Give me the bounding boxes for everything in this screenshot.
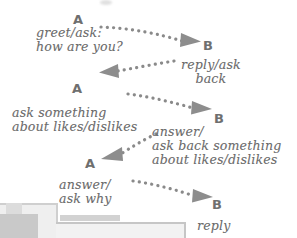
arrow-answer-ask-why: [133, 181, 213, 203]
actor-b-3: B: [212, 198, 222, 211]
arrow-reply-ask-back: [99, 61, 174, 78]
handwritten-sequence-diagram: A B A B A B greet/ask: how are you? repl…: [0, 0, 297, 238]
ink-smudge: [100, 0, 112, 5]
actor-b-2: B: [214, 112, 224, 125]
message-label-ask-something-likes: ask something about likes/dislikes: [12, 106, 137, 134]
actor-b-1: B: [203, 39, 213, 52]
photo-fragment-bar: [56, 222, 186, 238]
message-label-answer-ask-back-likes: answer/ ask back something about likes/d…: [152, 125, 281, 167]
message-label-reply-ask-back: reply/ask back: [181, 58, 241, 86]
actor-a-3: A: [85, 157, 96, 170]
message-label-answer-ask-why: answer/ ask why: [59, 178, 112, 206]
message-label-reply: reply: [197, 219, 230, 233]
photo-fragment-bar-inner: [60, 215, 120, 221]
photo-fragment-block: [0, 214, 38, 238]
arrow-ask-something-likes: [128, 94, 212, 115]
actor-a-2: A: [72, 82, 83, 95]
arrow-answer-ask-back-likes: [101, 134, 156, 161]
message-label-greet-ask: greet/ask: how are you?: [36, 26, 123, 54]
